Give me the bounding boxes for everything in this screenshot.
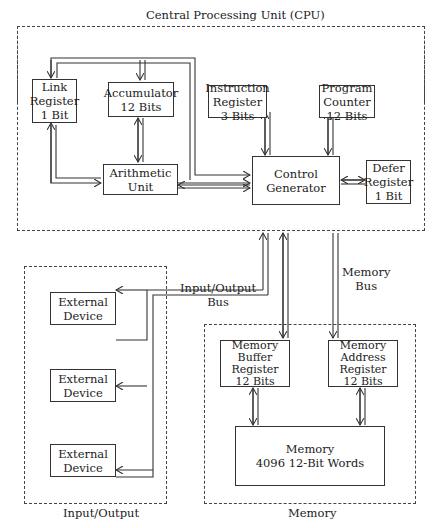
memory-bus-label-line: Memory xyxy=(342,265,390,279)
program-counter-label: Counter xyxy=(323,95,370,109)
link-register-size: 1 Bit xyxy=(41,108,69,122)
external-device-label: External xyxy=(58,447,108,461)
memory-bus-label: Memory Bus xyxy=(342,265,390,293)
mbr-size: 12 Bits xyxy=(235,376,274,388)
mbr-label: Memory xyxy=(232,340,278,352)
program-counter: Program Counter 12 Bits xyxy=(319,85,375,118)
external-device-3: External Device xyxy=(50,444,116,477)
memory-block: Memory 4096 12-Bit Words xyxy=(235,426,385,486)
external-device-label: Device xyxy=(63,309,102,323)
memory-section-title: Memory xyxy=(288,506,336,520)
external-device-label: External xyxy=(58,372,108,386)
defer-register-label: Register xyxy=(364,175,413,189)
memory-capacity: 4096 12-Bit Words xyxy=(256,456,365,470)
defer-register-size: 1 Bit xyxy=(375,189,403,203)
external-device-2: External Device xyxy=(50,369,116,402)
external-device-label: Device xyxy=(63,386,102,400)
cpu-section-title: Central Processing Unit (CPU) xyxy=(146,8,325,22)
link-register-label: Register xyxy=(30,94,79,108)
control-generator-label: Generator xyxy=(266,181,326,195)
memory-bus-label-line: Bus xyxy=(342,279,390,293)
cpu-section-boundary xyxy=(17,26,425,231)
arithmetic-unit-label: Arithmetic xyxy=(110,166,172,180)
accumulator: Accumulator 12 Bits xyxy=(108,82,174,117)
instruction-register-size: 3 Bits xyxy=(221,109,255,123)
memory-label: Memory xyxy=(286,442,334,456)
arithmetic-unit-label: Unit xyxy=(128,180,153,194)
memory-address-register: Memory Address Register 12 Bits xyxy=(328,340,398,387)
defer-register-label: Defer xyxy=(372,161,405,175)
io-section-title: Input/Output xyxy=(63,506,139,520)
program-counter-label: Program xyxy=(322,81,373,95)
arithmetic-unit: Arithmetic Unit xyxy=(103,164,178,195)
mar-label: Address xyxy=(340,352,385,364)
control-generator-label: Control xyxy=(274,167,318,181)
link-register: Link Register 1 Bit xyxy=(32,79,77,123)
io-bus-label-line: Bus xyxy=(180,295,256,309)
accumulator-size: 12 Bits xyxy=(121,100,162,114)
accumulator-label: Accumulator xyxy=(104,86,178,100)
program-counter-size: 12 Bits xyxy=(327,109,368,123)
mbr-label: Register xyxy=(231,364,278,376)
mar-label: Register xyxy=(339,364,386,376)
link-register-label: Link xyxy=(42,80,68,94)
mbr-label: Buffer xyxy=(238,352,273,364)
defer-register: Defer Register 1 Bit xyxy=(366,160,411,204)
control-generator: Control Generator xyxy=(252,156,340,205)
external-device-label: External xyxy=(58,295,108,309)
instruction-register-label: Instruction xyxy=(205,81,269,95)
mar-label: Memory xyxy=(340,340,386,352)
external-device-label: Device xyxy=(63,461,102,475)
io-bus-label: Input/Output Bus xyxy=(180,281,256,309)
io-bus-label-line: Input/Output xyxy=(180,281,256,295)
mar-size: 12 Bits xyxy=(343,376,382,388)
memory-buffer-register: Memory Buffer Register 12 Bits xyxy=(220,340,290,387)
instruction-register: Instruction Register 3 Bits xyxy=(208,85,267,118)
instruction-register-label: Register xyxy=(213,95,262,109)
external-device-1: External Device xyxy=(50,292,116,325)
